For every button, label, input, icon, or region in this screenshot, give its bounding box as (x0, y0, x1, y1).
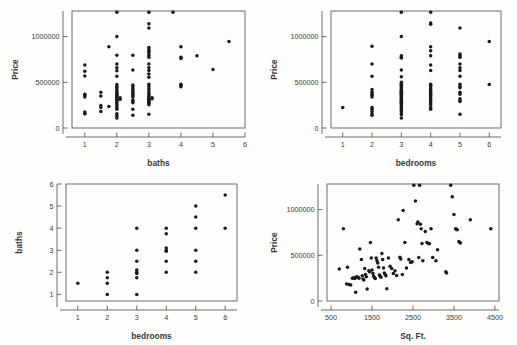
data-point (451, 195, 455, 199)
data-point (354, 291, 358, 295)
x-tick-label: 4 (164, 313, 168, 322)
data-point (424, 230, 428, 234)
data-point (370, 268, 374, 272)
plot-frame (327, 184, 499, 301)
data-point (365, 275, 369, 279)
y-tick-label: 6 (50, 180, 54, 189)
data-point (370, 75, 374, 79)
data-point (99, 110, 103, 114)
x-tick-label: 6 (243, 140, 247, 149)
data-point (357, 276, 361, 280)
data-point (429, 54, 433, 58)
data-point (147, 62, 151, 66)
scatter-plot-price-vs-sqft: 500150025003500450005000001000000Sq. Ft.… (259, 172, 517, 345)
data-point (455, 228, 459, 232)
data-point (342, 227, 346, 231)
y-tick-label: 1000000 (32, 32, 60, 41)
data-point (164, 271, 168, 275)
data-point (164, 226, 168, 230)
data-point (194, 226, 198, 230)
data-point (436, 248, 440, 252)
y-tick-label: 0 (315, 124, 319, 133)
x-tick-label: 3500 (446, 313, 462, 322)
data-point (358, 247, 362, 251)
data-point (428, 242, 432, 246)
data-point (115, 11, 119, 15)
data-point (449, 184, 453, 188)
data-point (418, 184, 422, 188)
x-tick-label: 500 (325, 313, 337, 322)
y-axis-title: baths (14, 231, 24, 254)
data-point (194, 271, 198, 275)
data-point (379, 275, 383, 279)
data-point (405, 266, 409, 270)
data-point (369, 241, 373, 245)
data-point (107, 105, 111, 109)
data-point (400, 11, 404, 15)
data-point (338, 267, 342, 271)
data-point (458, 113, 462, 117)
data-point (131, 54, 135, 58)
data-point (194, 260, 198, 264)
x-tick-label: 1 (83, 140, 87, 149)
panel-baths-vs-bedrooms: 123456123456bedroomsbaths (0, 172, 259, 345)
data-point (360, 258, 364, 262)
data-point (382, 266, 386, 270)
data-point (365, 287, 369, 291)
data-point (458, 75, 462, 79)
data-point (414, 199, 418, 203)
y-tick-label: 0 (311, 297, 315, 306)
data-point (412, 184, 416, 188)
data-point (99, 94, 103, 98)
data-point-group (76, 193, 227, 296)
data-point (147, 72, 151, 76)
data-point (135, 293, 139, 297)
data-point-group (83, 11, 231, 120)
data-point (115, 69, 119, 73)
data-point (115, 108, 119, 112)
x-tick-label: 4500 (487, 313, 503, 322)
data-point (400, 116, 404, 120)
data-point (131, 101, 135, 105)
data-point (400, 68, 404, 72)
x-axis-title: bedrooms (396, 158, 437, 168)
data-point (401, 209, 405, 213)
data-point (400, 113, 404, 117)
data-point (106, 293, 110, 297)
data-point (131, 108, 135, 112)
y-axis-title: Price (269, 232, 279, 253)
data-point (420, 242, 424, 246)
x-tick-label: 6 (223, 313, 227, 322)
scatter-plot-baths-vs-bedrooms: 123456123456bedroomsbaths (0, 172, 259, 345)
data-point (469, 218, 473, 222)
data-point (227, 40, 231, 44)
data-point (99, 106, 103, 110)
data-point (407, 258, 411, 262)
data-point (147, 76, 151, 80)
data-point (118, 97, 122, 101)
data-point (131, 95, 135, 99)
data-point (179, 85, 183, 89)
data-point (106, 271, 110, 275)
y-tick-label: 500000 (291, 251, 315, 260)
data-point (171, 11, 175, 15)
y-tick-label: 1 (50, 290, 54, 299)
x-tick-label: 4 (179, 140, 183, 149)
x-tick-label: 5 (194, 313, 198, 322)
plot-frame (331, 11, 501, 128)
data-point (377, 265, 381, 269)
data-point (147, 69, 151, 73)
x-axis-title: Sq. Ft. (400, 331, 426, 341)
data-point (164, 250, 168, 254)
data-point (381, 258, 385, 262)
data-point (489, 227, 493, 231)
data-point (458, 62, 462, 66)
data-point (147, 113, 151, 117)
data-point (421, 259, 425, 263)
data-point (417, 256, 421, 260)
data-point (83, 70, 87, 74)
y-axis-title: Price (269, 59, 279, 80)
x-tick-label: 3 (147, 140, 151, 149)
data-point (458, 69, 462, 73)
data-point (194, 248, 198, 252)
